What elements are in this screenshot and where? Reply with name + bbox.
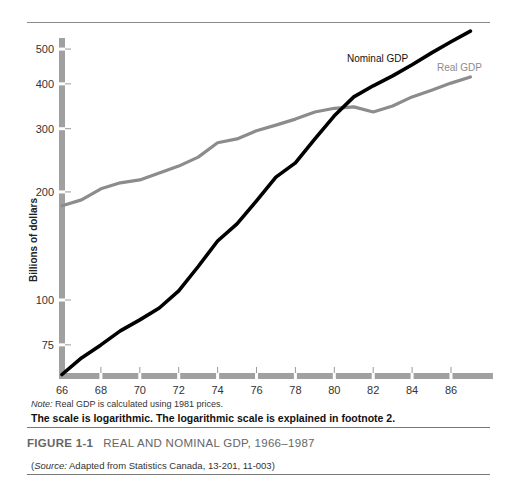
y-tick-label: 100: [36, 294, 54, 306]
caption-rule-top: [27, 427, 490, 428]
scale-note: The scale is logarithmic. The logarithmi…: [31, 412, 395, 424]
y-tick-label: 400: [36, 78, 54, 90]
x-tick-label: 84: [406, 384, 418, 396]
y-axis: 75100200300400500: [36, 38, 71, 377]
x-tick-label: 72: [173, 384, 185, 396]
x-tick-label: 66: [56, 384, 68, 396]
source-citation: (Source: Adapted from Statistics Canada,…: [31, 460, 275, 471]
y-tick-label: 75: [42, 339, 54, 351]
real-gdp-label: Real GDP: [437, 62, 482, 73]
nominal-gdp-label: Nominal GDP: [347, 53, 408, 64]
note-text: Real GDP is calculated using 1981 prices…: [53, 399, 223, 409]
x-tick-label: 82: [367, 384, 379, 396]
x-tick-label: 80: [328, 384, 340, 396]
x-tick-label: 76: [250, 384, 262, 396]
x-tick-label: 74: [211, 384, 223, 396]
y-tick-label: 200: [36, 186, 54, 198]
figure-caption: FIGURE 1-1REAL AND NOMINAL GDP, 1966–198…: [27, 437, 315, 449]
y-tick-label: 300: [36, 123, 54, 135]
note-prefix: Note:: [31, 399, 53, 409]
x-tick-label: 70: [134, 384, 146, 396]
x-tick-label: 78: [289, 384, 301, 396]
y-tick-label: 500: [36, 43, 54, 55]
figure-title: REAL AND NOMINAL GDP, 1966–1987: [103, 437, 315, 449]
figure-number: FIGURE 1-1: [27, 437, 93, 449]
x-axis: 6668707274767880828486: [56, 367, 493, 396]
gdp-chart: 75100200300400500 6668707274767880828486…: [0, 0, 514, 400]
y-axis-label: Billions of dollars: [28, 198, 39, 282]
x-tick-label: 68: [95, 384, 107, 396]
caption-rule-bottom: [27, 474, 490, 475]
series-lines: [62, 31, 470, 374]
source-prefix: Source:: [34, 460, 67, 471]
nominal-gdp-line: [62, 31, 470, 374]
note: Note: Real GDP is calculated using 1981 …: [31, 399, 223, 409]
source-text: Adapted from Statistics Canada, 13-201, …: [67, 460, 275, 471]
x-tick-label: 86: [445, 384, 457, 396]
